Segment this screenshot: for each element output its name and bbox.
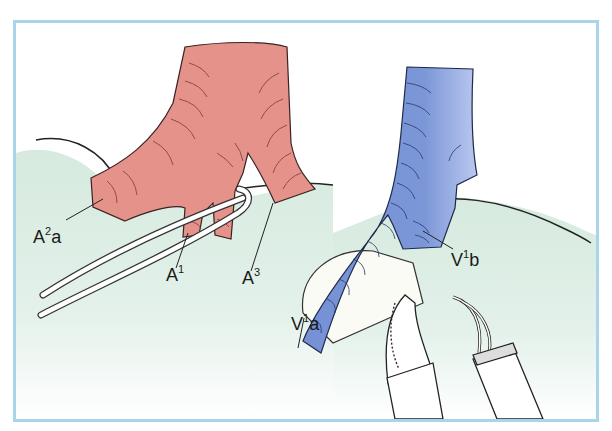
label-A3: A3 xyxy=(242,269,260,287)
label-V1b: V1b xyxy=(451,251,479,269)
label-A2a: A2a xyxy=(33,228,61,246)
illustration xyxy=(16,23,596,419)
figure-frame: A2a A1 A3 V1a V1b xyxy=(13,20,599,422)
label-V1a: V1a xyxy=(291,315,319,333)
label-A1: A1 xyxy=(166,266,184,284)
